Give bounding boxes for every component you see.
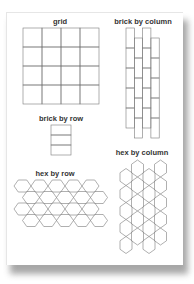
brick-by-column-pattern xyxy=(126,28,159,138)
hex-by-row-pattern xyxy=(14,180,108,227)
pattern-drawings xyxy=(0,0,194,284)
brick-by-row-pattern xyxy=(51,125,71,155)
grid-pattern xyxy=(23,28,99,104)
hex-by-column-pattern xyxy=(120,160,167,254)
